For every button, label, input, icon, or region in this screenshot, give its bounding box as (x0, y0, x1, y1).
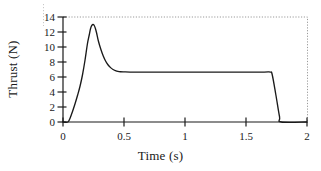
x-axis-title: Time (s) (0, 148, 321, 164)
thrust-time-chart-figure: 02468101214 00.511.52 Thrust (N) Time (s… (0, 0, 321, 171)
y-tick-label: 14 (44, 11, 56, 23)
y-axis-title-wrapper: Thrust (N) (5, 14, 23, 124)
y-tick-label: 4 (50, 86, 56, 98)
y-tick-label: 2 (50, 101, 56, 113)
y-axis-title: Thrust (N) (5, 14, 21, 124)
y-tick-label: 6 (50, 71, 56, 83)
x-tick-label: 1.5 (239, 130, 253, 142)
y-tick-label: 12 (44, 26, 55, 38)
y-tick-label: 0 (50, 116, 56, 128)
x-tick-label: 1 (182, 130, 188, 142)
y-tick-label: 8 (50, 56, 56, 68)
y-tick-label: 10 (44, 41, 56, 53)
x-tick-label: 2 (304, 130, 310, 142)
x-tick-label: 0.5 (117, 130, 131, 142)
x-tick-label: 0 (60, 130, 66, 142)
chart-canvas: 02468101214 00.511.52 (0, 0, 321, 171)
